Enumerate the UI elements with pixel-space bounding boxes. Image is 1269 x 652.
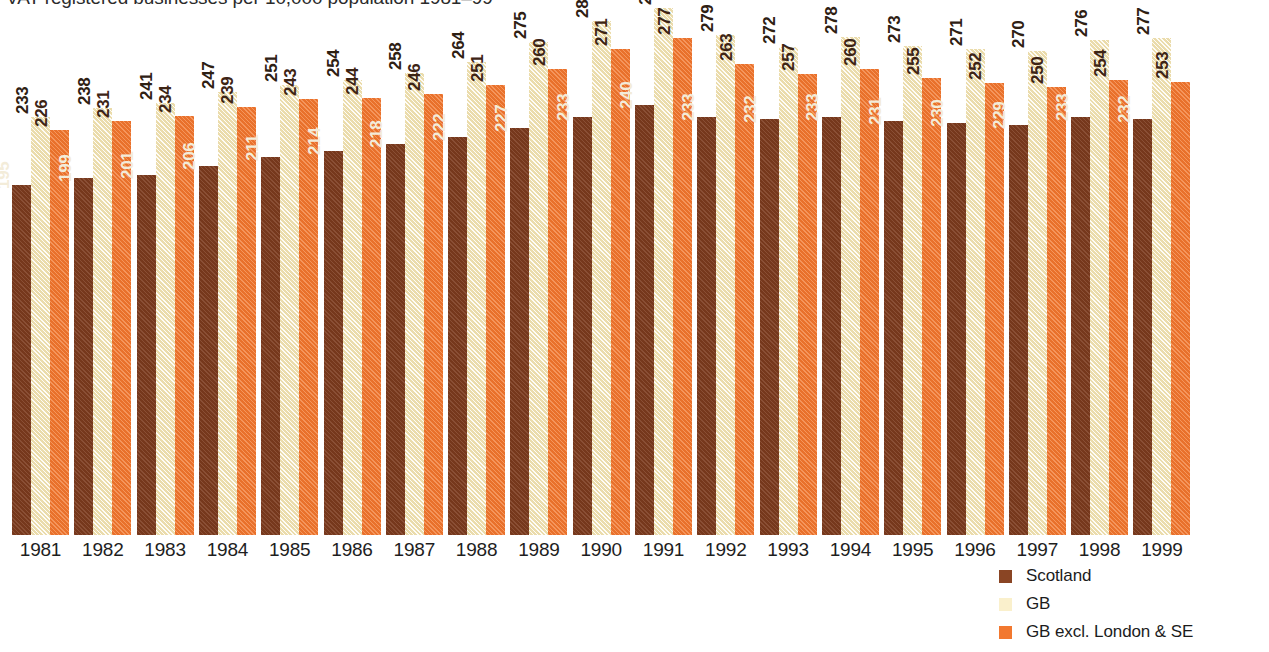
bar-group-1984: 206247239 bbox=[199, 0, 256, 536]
bar-fill bbox=[237, 107, 256, 535]
bar-fill bbox=[903, 46, 922, 535]
bar-1990-series-1: 287 bbox=[592, 21, 611, 535]
bar-1981-series-1: 233 bbox=[31, 117, 50, 535]
bar-1999-series-2: 253 bbox=[1171, 82, 1190, 536]
bar-value-label: 251 bbox=[468, 55, 487, 82]
bar-fill bbox=[1152, 38, 1171, 535]
bar-fill bbox=[74, 178, 93, 535]
bar-value-label: 250 bbox=[1028, 56, 1047, 83]
bar-value-label: 238 bbox=[75, 78, 94, 105]
bar-fill bbox=[50, 130, 69, 535]
bar-group-1993: 232272257 bbox=[760, 0, 817, 536]
bar-value-label: 278 bbox=[822, 6, 841, 33]
bar-1983-series-0: 201 bbox=[137, 175, 156, 535]
bar-value-label: 240 bbox=[617, 81, 636, 108]
bar-fill bbox=[31, 117, 50, 535]
bar-fill bbox=[467, 62, 486, 535]
bar-fill bbox=[860, 69, 879, 535]
bar-fill bbox=[592, 21, 611, 535]
bar-value-label: 294 bbox=[636, 0, 655, 5]
bar-fill bbox=[966, 49, 985, 535]
bar-fill bbox=[716, 35, 735, 535]
bar-1987-series-1: 258 bbox=[405, 73, 424, 535]
bar-group-1990: 233287271 bbox=[573, 0, 630, 536]
bar-fill bbox=[448, 137, 467, 535]
bar-fill bbox=[548, 69, 567, 535]
bar-fill bbox=[947, 123, 966, 535]
bar-1993-series-0: 232 bbox=[760, 119, 779, 535]
legend-item-2[interactable]: GB excl. London & SE bbox=[999, 618, 1269, 646]
legend-item-1[interactable]: GB bbox=[999, 590, 1269, 618]
bar-value-label: 275 bbox=[511, 12, 530, 39]
bar-fill bbox=[218, 92, 237, 535]
bar-fill bbox=[112, 121, 131, 535]
legend-swatch-icon bbox=[999, 626, 1012, 639]
bar-group-1997: 229270250 bbox=[1009, 0, 1066, 536]
bar-value-label: 260 bbox=[530, 38, 549, 65]
bar-1988-series-0: 222 bbox=[448, 137, 467, 535]
bar-1994-series-1: 278 bbox=[841, 37, 860, 535]
bar-fill bbox=[1109, 80, 1128, 535]
bar-1994-series-0: 233 bbox=[822, 117, 841, 535]
bar-1992-series-1: 279 bbox=[716, 35, 735, 535]
bar-1985-series-0: 211 bbox=[261, 157, 280, 535]
bar-1986-series-0: 214 bbox=[324, 151, 343, 535]
bar-fill bbox=[635, 105, 654, 535]
bar-fill bbox=[1009, 125, 1028, 535]
x-axis-label-1999: 1999 bbox=[1125, 539, 1198, 561]
bar-group-1991: 240294277 bbox=[635, 0, 692, 536]
legend-label: Scotland bbox=[1026, 566, 1091, 586]
bar-fill bbox=[12, 185, 31, 535]
bar-value-label: 254 bbox=[324, 49, 343, 76]
bar-fill bbox=[760, 119, 779, 535]
bar-fill bbox=[529, 42, 548, 535]
bar-fill bbox=[798, 74, 817, 535]
bar-1989-series-0: 227 bbox=[510, 128, 529, 535]
bar-value-label: 264 bbox=[449, 31, 468, 58]
bar-value-label: 222 bbox=[430, 114, 449, 141]
bar-value-label: 201 bbox=[118, 151, 137, 178]
bar-fill bbox=[362, 98, 381, 535]
bar-group-1983: 201241234 bbox=[137, 0, 194, 536]
bar-value-label: 231 bbox=[94, 90, 113, 117]
bar-value-label: 232 bbox=[1115, 96, 1134, 123]
bar-value-label: 241 bbox=[137, 73, 156, 100]
bar-1995-series-2: 255 bbox=[922, 78, 941, 535]
bar-group-1998: 233276254 bbox=[1071, 0, 1128, 536]
bar-fill bbox=[654, 8, 673, 535]
bar-value-label: 247 bbox=[199, 62, 218, 89]
bar-value-label: 232 bbox=[741, 96, 760, 123]
bar-value-label: 195 bbox=[0, 162, 13, 189]
bar-value-label: 277 bbox=[1134, 8, 1153, 35]
bar-1993-series-2: 257 bbox=[798, 74, 817, 535]
bar-value-label: 287 bbox=[573, 0, 592, 18]
bar-1996-series-2: 252 bbox=[985, 83, 1004, 535]
bar-fill bbox=[884, 121, 903, 535]
bar-fill bbox=[386, 144, 405, 535]
bar-value-label: 226 bbox=[32, 99, 51, 126]
plot-area: 1952332261992382312012412342062472392112… bbox=[0, 0, 1269, 536]
bar-value-label: 263 bbox=[717, 33, 736, 60]
bar-group-1996: 230271252 bbox=[947, 0, 1004, 536]
chart-legend: ScotlandGBGB excl. London & SE bbox=[999, 562, 1269, 646]
bar-1996-series-0: 230 bbox=[947, 123, 966, 535]
bar-1999-series-1: 277 bbox=[1152, 38, 1171, 535]
bar-value-label: 252 bbox=[966, 53, 985, 80]
bar-value-label: 214 bbox=[305, 128, 324, 155]
bar-value-label: 233 bbox=[554, 94, 573, 121]
bar-1989-series-1: 275 bbox=[529, 42, 548, 535]
bar-fill bbox=[405, 73, 424, 535]
bar-group-1987: 218258246 bbox=[386, 0, 443, 536]
legend-item-0[interactable]: Scotland bbox=[999, 562, 1269, 590]
bar-fill bbox=[280, 85, 299, 535]
bar-value-label: 279 bbox=[698, 4, 717, 31]
bar-1997-series-2: 250 bbox=[1047, 87, 1066, 535]
bar-1989-series-2: 260 bbox=[548, 69, 567, 535]
bar-1998-series-2: 254 bbox=[1109, 80, 1128, 535]
legend-swatch-icon bbox=[999, 598, 1012, 611]
bar-value-label: 229 bbox=[990, 101, 1009, 128]
bar-value-label: 276 bbox=[1072, 10, 1091, 37]
bar-value-label: 234 bbox=[156, 85, 175, 112]
bar-value-label: 227 bbox=[492, 105, 511, 132]
legend-swatch-icon bbox=[999, 570, 1012, 583]
